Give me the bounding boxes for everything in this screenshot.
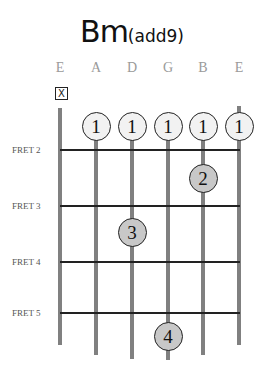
- fret-line-5: [60, 312, 240, 314]
- finger-dot: 4: [154, 322, 183, 351]
- string-name-2: A: [86, 60, 106, 76]
- fret-line-3: [60, 205, 240, 207]
- chord-title: Bm(add9): [0, 14, 264, 49]
- finger-dot: 3: [118, 218, 147, 247]
- fret-label-3: FRET 3: [12, 201, 52, 211]
- fret-label-4: FRET 4: [12, 257, 52, 267]
- string-name-6: E: [229, 60, 249, 76]
- finger-dot: 1: [189, 112, 218, 141]
- string-name-5: B: [193, 60, 213, 76]
- chord-root: Bm: [80, 14, 128, 49]
- fret-label-5: FRET 5: [12, 308, 52, 318]
- chord-extension: (add9): [128, 26, 184, 46]
- finger-dot: 1: [225, 112, 254, 141]
- fret-line-2: [60, 149, 240, 151]
- string-1: [58, 108, 62, 345]
- finger-dot: 1: [154, 112, 183, 141]
- finger-dot: 1: [82, 112, 111, 141]
- mute-x-icon: X: [55, 87, 68, 100]
- string-name-4: G: [158, 60, 178, 76]
- fret-line-4: [60, 261, 240, 263]
- string-2: [94, 130, 98, 355]
- string-name-3: D: [122, 60, 142, 76]
- finger-dot: 1: [118, 112, 147, 141]
- string-6: [237, 106, 241, 345]
- fret-label-2: FRET 2: [12, 145, 52, 155]
- string-name-1: E: [50, 60, 70, 76]
- finger-dot: 2: [189, 164, 218, 193]
